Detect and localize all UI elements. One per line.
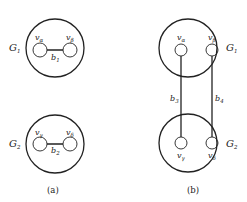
- vertex-v-delta: [206, 137, 218, 149]
- panel-a-graph-g2: [26, 115, 84, 173]
- vertex-label-v-alpha: vα: [35, 33, 44, 43]
- panel-b-graph-g2: [159, 114, 218, 172]
- graph-label-g2: G2: [9, 138, 21, 150]
- caption-a: (a): [47, 185, 59, 195]
- vertex-label-v-beta: vβ: [66, 33, 74, 44]
- graph-figure: G1 vα vβ b1 G2 vγ vδ b2 (a) vα vβ G1 b3 …: [0, 0, 247, 202]
- graph-g1-boundary: [26, 19, 84, 77]
- panel-a-graph-g1: [26, 19, 84, 77]
- vertex-label-v-beta: vβ: [208, 33, 216, 44]
- vertex-v-beta: [63, 43, 77, 57]
- vertex-v-alpha: [33, 43, 47, 57]
- panel-b-graph-g1: [159, 19, 218, 77]
- vertex-v-gamma: [175, 137, 187, 149]
- vertex-label-v-alpha: vα: [177, 33, 186, 43]
- vertex-label-v-gamma: vγ: [177, 151, 186, 162]
- graph-label-g2: G2: [226, 138, 238, 150]
- caption-b: (b): [187, 185, 199, 195]
- vertex-label-v-gamma: vγ: [35, 128, 44, 139]
- vertex-label-v-delta: vδ: [66, 128, 75, 138]
- edge-label-b3: b3: [170, 94, 179, 104]
- vertex-v-gamma: [33, 137, 47, 151]
- graph-g2-boundary: [159, 114, 217, 172]
- edge-label-b4: b4: [215, 94, 224, 104]
- edge-label-b1: b1: [51, 53, 60, 63]
- vertex-v-delta: [63, 137, 77, 151]
- vertex-v-beta: [206, 44, 218, 56]
- graph-label-g1: G1: [9, 42, 21, 54]
- edge-label-b2: b2: [51, 146, 60, 156]
- vertex-v-alpha: [175, 44, 187, 56]
- graph-g1-boundary: [159, 19, 217, 77]
- graph-label-g1: G1: [226, 42, 238, 54]
